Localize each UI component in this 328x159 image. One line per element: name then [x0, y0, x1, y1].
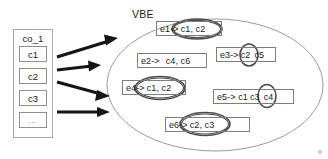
- diagram-canvas: VBE co_1 c1 c2 c3 ... e1-> c1, c2 e2-> c…: [0, 0, 328, 159]
- co1-header-label: co_1: [13, 33, 53, 44]
- rule-box-e5[interactable]: e5-> c1 c3 c4: [213, 89, 294, 104]
- co1-item-more-label: ...: [28, 116, 38, 125]
- rule-box-e6[interactable]: e6-> c2, c3: [165, 117, 250, 132]
- rule-e4-head: e4->: [126, 83, 145, 93]
- arrow-more-to-vbe: [57, 107, 110, 117]
- rule-e1-head: e1->: [160, 24, 179, 34]
- vbe-label: VBE: [132, 8, 154, 20]
- arrow-c2-to-vbe: [57, 61, 101, 72]
- rule-e3-head: e3->: [220, 50, 239, 60]
- rule-e1-highlighted: c1, c2: [181, 24, 206, 34]
- rule-e4-highlighted: c1, c2: [147, 83, 172, 93]
- rule-e2-tail: c4, c6: [166, 56, 191, 66]
- co1-item-c3[interactable]: c3: [19, 90, 47, 106]
- rule-e5-highlighted: c3: [250, 92, 260, 102]
- rule-e5-head: e5-> c1: [217, 92, 248, 102]
- arrow-c1-to-vbe: [57, 35, 118, 58]
- co1-item-c1[interactable]: c1: [19, 46, 47, 62]
- arrow-group: [57, 35, 118, 118]
- corner-artifact: [318, 150, 322, 154]
- rule-e3-highlighted: c2: [241, 50, 251, 60]
- rule-e2-head: e2->: [141, 56, 160, 66]
- arrow-c3-to-vbe: [57, 82, 110, 101]
- rule-box-e3[interactable]: e3-> c2 c5: [216, 47, 276, 62]
- rule-box-e1[interactable]: e1-> c1, c2: [156, 21, 222, 36]
- rule-box-e4[interactable]: e4-> c1, c2: [122, 80, 186, 95]
- co1-item-more[interactable]: ...: [19, 112, 47, 128]
- rule-e6-highlighted: c2, c3: [190, 120, 215, 130]
- rule-e3-tail: c5: [254, 50, 264, 60]
- co1-item-c1-label: c1: [28, 49, 38, 60]
- rule-box-e2[interactable]: e2-> c4, c6: [137, 53, 207, 68]
- rule-e6-head: e6->: [169, 120, 188, 130]
- co1-item-c2[interactable]: c2: [19, 68, 47, 84]
- co1-item-c3-label: c3: [28, 93, 38, 104]
- rule-e5-tail: c4: [264, 92, 274, 102]
- co1-item-c2-label: c2: [28, 71, 38, 82]
